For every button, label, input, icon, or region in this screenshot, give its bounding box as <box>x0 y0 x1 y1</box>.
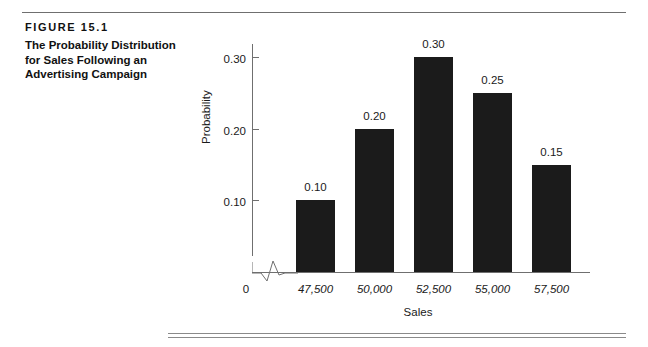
bar <box>296 200 335 272</box>
x-axis-line <box>252 272 590 273</box>
y-axis-tick <box>253 129 259 130</box>
x-axis-tick-label: 57,500 <box>514 283 589 295</box>
y-axis-tick-label-text: 0.30 <box>224 53 246 65</box>
bottom-divider-rule-upper <box>168 333 626 334</box>
bar-chart: 0.100.200.30 Probability 0.100.200.300.2… <box>0 0 648 347</box>
bar-value-label: 0.20 <box>341 110 408 122</box>
bar <box>355 129 394 272</box>
bar <box>473 93 512 272</box>
bar <box>532 165 571 273</box>
bar-value-label: 0.30 <box>400 38 467 50</box>
x-axis-title: Sales <box>388 306 448 318</box>
y-axis-tick-label-text: 0.20 <box>224 125 246 137</box>
y-axis-tick-label: 0.30 <box>200 49 246 67</box>
bar <box>414 57 453 272</box>
y-axis-tick-label-text: 0.10 <box>224 196 246 208</box>
y-axis-line <box>252 44 253 256</box>
bottom-divider-rule-lower <box>168 337 626 338</box>
axis-origin-label: 0 <box>236 283 256 295</box>
figure-page: FIGURE 15.1 The Probability Distribution… <box>0 0 648 347</box>
axis-break-icon <box>252 256 298 282</box>
y-axis-tick-label: 0.10 <box>200 192 246 210</box>
bar-value-label: 0.25 <box>459 74 526 86</box>
bar-value-label: 0.15 <box>518 146 585 158</box>
y-axis-title: Probability <box>200 104 212 144</box>
y-axis-tick <box>253 57 259 58</box>
y-axis-tick <box>253 200 259 201</box>
bar-value-label: 0.10 <box>282 181 349 193</box>
